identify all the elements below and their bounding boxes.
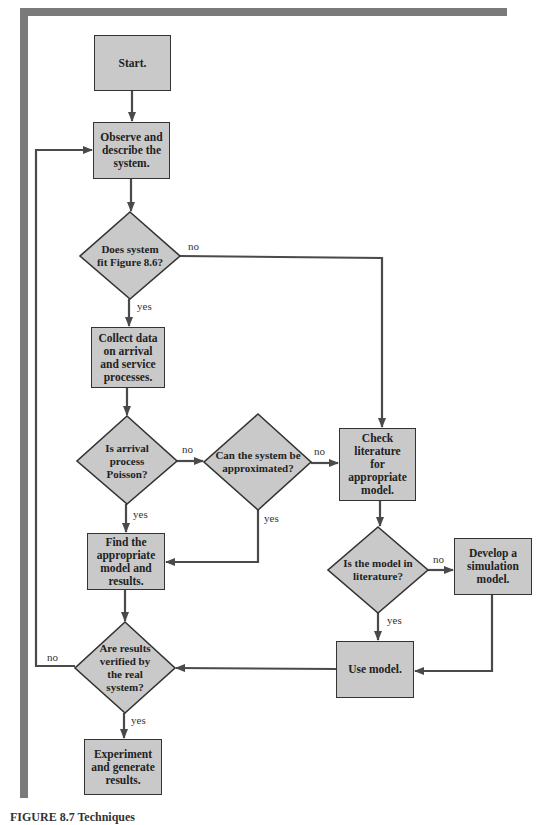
node-use-model: Use model.: [336, 641, 414, 698]
node-collect-data: Collect data on arrival and service proc…: [91, 327, 165, 388]
edge-label-approx-no: no: [314, 445, 325, 457]
node-observe: Observe and describe the system.: [93, 122, 170, 179]
decision-poisson-label: Is arrival process Poisson?: [97, 430, 157, 492]
edge-label-fit-no: no: [188, 240, 199, 252]
edge-label-inlit-no: no: [433, 553, 444, 565]
arrow-fit-no: [180, 256, 382, 427]
edge-label-verified-no: no: [47, 651, 58, 663]
edge-label-inlit-yes: yes: [387, 614, 402, 626]
node-check-literature: Check literature for appropriate model.: [339, 428, 416, 501]
edge-label-fit-yes: yes: [137, 300, 152, 312]
arrow-verified-no: [36, 150, 92, 666]
decision-in-literature-label: Is the model in literature?: [343, 540, 413, 600]
decision-verified-label: Are results verified by the real system?: [92, 628, 158, 708]
edge-label-verified-yes: yes: [131, 714, 146, 726]
edge-label-poisson-no: no: [182, 443, 193, 455]
arrow-use-to-verified: [176, 668, 336, 669]
decision-approximate-label: Can the system be approximated?: [212, 432, 304, 492]
node-develop-simulation: Develop a simulation model.: [454, 538, 532, 595]
arrow-approx-yes: [166, 510, 258, 562]
node-experiment: Experiment and generate results.: [84, 739, 162, 795]
edge-label-approx-yes: yes: [264, 512, 279, 524]
decision-fit-figure-label: Does system fit Figure 8.6?: [95, 222, 165, 290]
figure-caption: FIGURE 8.7 Techniques: [10, 810, 135, 825]
node-start: Start.: [94, 35, 171, 91]
arrow-develop-to-use: [415, 595, 492, 671]
edge-label-poisson-yes: yes: [133, 508, 148, 520]
node-find-model: Find the appropriate model and results.: [87, 533, 165, 590]
